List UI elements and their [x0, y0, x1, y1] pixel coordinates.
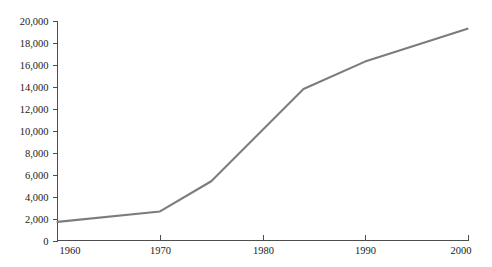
y-tick-label: 4,000 — [25, 192, 49, 203]
y-tick-label: 12,000 — [20, 104, 49, 115]
data-line-series-1 — [58, 29, 468, 222]
y-tick-label: 0 — [43, 236, 48, 247]
x-axis: 19601970198019902000 — [57, 235, 472, 256]
y-tick-label: 10,000 — [20, 126, 49, 137]
y-axis: 02,0004,0006,0008,00010,00012,00014,0001… — [20, 16, 58, 247]
y-tick-label: 14,000 — [20, 82, 49, 93]
x-tick-label: 1960 — [60, 245, 81, 256]
y-axis-tick-labels: 02,0004,0006,0008,00010,00012,00014,0001… — [20, 16, 49, 247]
x-tick-label: 2000 — [451, 245, 472, 256]
y-tick-label: 20,000 — [20, 16, 49, 27]
chart-figure: 02,0004,0006,0008,00010,00012,00014,0001… — [0, 0, 492, 267]
y-tick-label: 8,000 — [25, 148, 49, 159]
y-tick-label: 2,000 — [25, 214, 49, 225]
x-tick-label: 1980 — [253, 245, 274, 256]
line-chart: 02,0004,0006,0008,00010,00012,00014,0001… — [0, 0, 492, 267]
y-tick-label: 6,000 — [25, 170, 49, 181]
x-axis-tick-labels: 19601970198019902000 — [60, 245, 472, 256]
y-tick-label: 18,000 — [20, 38, 49, 49]
plot-area — [58, 29, 468, 222]
y-tick-label: 16,000 — [20, 60, 49, 71]
y-axis-ticks — [53, 22, 58, 242]
x-tick-label: 1970 — [150, 245, 171, 256]
x-axis-ticks — [161, 235, 469, 241]
x-tick-label: 1990 — [355, 245, 376, 256]
